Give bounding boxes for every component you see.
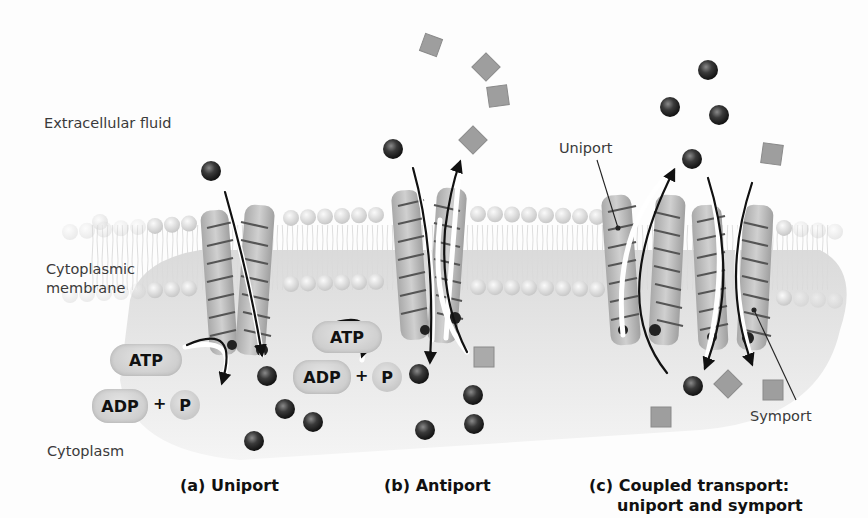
membrane-illustration: [0, 0, 868, 518]
phosphate-b: P: [372, 362, 402, 392]
caption-antiport: (b) Antiport: [384, 476, 491, 496]
plus-sign-a: +: [153, 394, 166, 413]
adp-molecule-b: ADP: [293, 360, 351, 394]
atp-molecule-a: ATP: [110, 344, 182, 376]
membrane-label-line2: membrane: [46, 279, 125, 297]
symport-callout-label: Symport: [750, 407, 812, 425]
transport-diagram: Extracellular fluid Cytoplasmic membrane…: [0, 0, 868, 518]
caption-coupled-transport-line1: (c) Coupled transport:: [589, 476, 789, 496]
plus-sign-b: +: [355, 366, 368, 385]
atp-molecule-b: ATP: [312, 321, 382, 353]
caption-coupled-transport-line2: uniport and symport: [617, 496, 803, 516]
cytoplasm-label: Cytoplasm: [47, 442, 124, 460]
extracellular-fluid-label: Extracellular fluid: [44, 114, 171, 132]
phosphate-a: P: [170, 390, 200, 420]
uniport-callout-label: Uniport: [559, 139, 613, 157]
membrane-label-line1: Cytoplasmic: [46, 260, 135, 278]
caption-uniport: (a) Uniport: [180, 476, 279, 496]
adp-molecule-a: ADP: [92, 389, 148, 423]
